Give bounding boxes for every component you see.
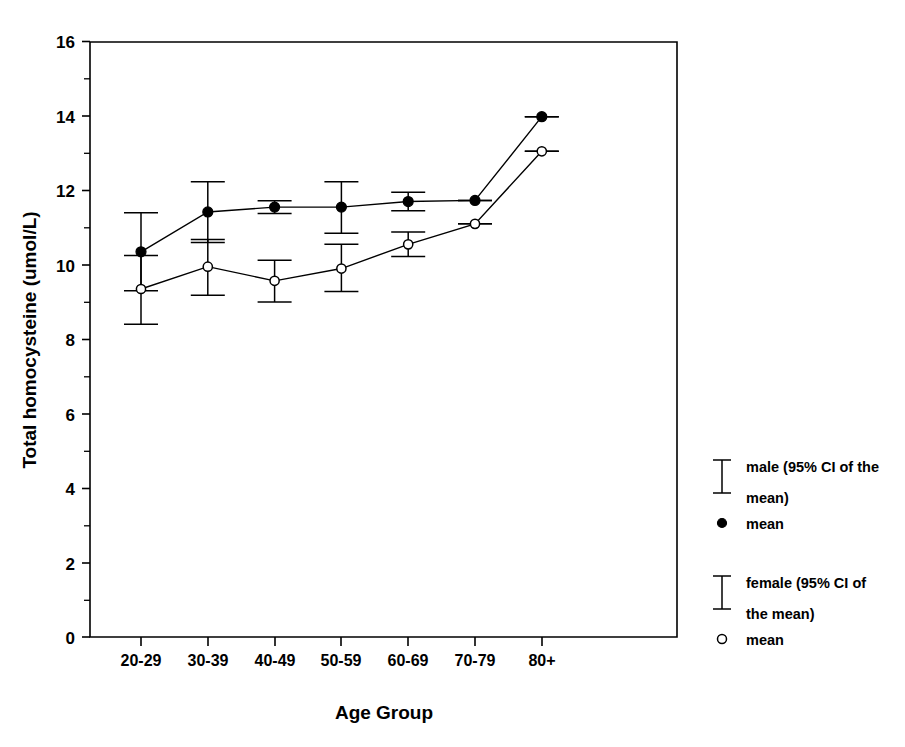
y-tick-2: 2 (66, 555, 90, 574)
x-axis-title: Age Group (335, 702, 433, 723)
y-tick-label-16: 16 (56, 33, 75, 52)
series-female (124, 147, 559, 325)
plot-frame (90, 42, 677, 637)
data-point-male-40-49 (270, 202, 280, 212)
data-point-female-60-69 (404, 240, 413, 249)
y-tick-label-10: 10 (56, 257, 75, 276)
y-tick-label-6: 6 (66, 406, 75, 425)
y-axis-title: Total homocysteine (umol/L) (19, 211, 40, 468)
y-axis: 16 14 12 10 8 6 (56, 33, 90, 648)
legend: male (95% CI of the mean) mean female (9… (713, 459, 879, 648)
chart-figure: 16 14 12 10 8 6 (0, 0, 905, 747)
data-point-male-60-69 (403, 197, 413, 207)
legend-item-male-mean: mean (718, 516, 784, 532)
legend-marker-filled-circle (718, 519, 727, 528)
y-tick-0: 0 (66, 629, 90, 648)
data-point-female-80+ (537, 147, 546, 156)
frame-rect (90, 42, 677, 637)
legend-label-male-mean: mean (746, 516, 784, 532)
y-tick-8: 8 (66, 331, 90, 350)
y-tick-label-2: 2 (66, 555, 75, 574)
y-tick-label-4: 4 (66, 480, 76, 499)
y-tick-16: 16 (56, 33, 90, 52)
data-point-male-50-59 (336, 202, 346, 212)
x-tick-label-30-39: 30-39 (188, 652, 229, 669)
x-tick-label-40-49: 40-49 (255, 652, 296, 669)
y-tick-6: 6 (66, 406, 90, 425)
x-tick-label-50-59: 50-59 (321, 652, 362, 669)
x-axis: 20-29 30-39 40-49 50-59 60-69 70-79 80+ (121, 637, 556, 669)
x-tick-label-60-69: 60-69 (388, 652, 429, 669)
data-point-female-50-59 (337, 264, 346, 273)
y-tick-14: 14 (56, 108, 90, 127)
homocysteine-by-age-chart: 16 14 12 10 8 6 (0, 0, 905, 747)
data-point-female-70-79 (470, 219, 479, 228)
data-point-female-40-49 (270, 276, 279, 285)
legend-label-male-ci-2: mean) (746, 490, 789, 506)
data-point-male-80+ (537, 112, 547, 122)
legend-item-female-ci: female (95% CI of the mean) (713, 575, 866, 622)
legend-marker-open-circle (718, 635, 727, 644)
y-tick-label-8: 8 (66, 331, 75, 350)
data-point-female-30-39 (203, 262, 212, 271)
y-tick-10: 10 (56, 257, 90, 276)
data-point-male-30-39 (203, 207, 213, 217)
legend-label-male-ci-1: male (95% CI of the (746, 459, 879, 475)
y-tick-label-0: 0 (66, 629, 75, 648)
legend-label-female-ci-1: female (95% CI of (746, 575, 866, 591)
x-tick-label-80plus: 80+ (528, 652, 555, 669)
data-point-female-20-29 (136, 284, 145, 293)
y-tick-4: 4 (66, 480, 90, 499)
legend-label-female-mean: mean (746, 632, 784, 648)
x-tick-label-70-79: 70-79 (455, 652, 496, 669)
x-tick-label-20-29: 20-29 (121, 652, 162, 669)
data-point-male-70-79 (470, 195, 480, 205)
y-tick-12: 12 (56, 182, 90, 201)
legend-item-male-ci: male (95% CI of the mean) (713, 459, 879, 506)
y-tick-label-14: 14 (56, 108, 75, 127)
legend-label-female-ci-2: the mean) (746, 606, 815, 622)
legend-item-female-mean: mean (718, 632, 784, 648)
y-tick-label-12: 12 (56, 182, 75, 201)
data-series-layer (124, 112, 559, 325)
